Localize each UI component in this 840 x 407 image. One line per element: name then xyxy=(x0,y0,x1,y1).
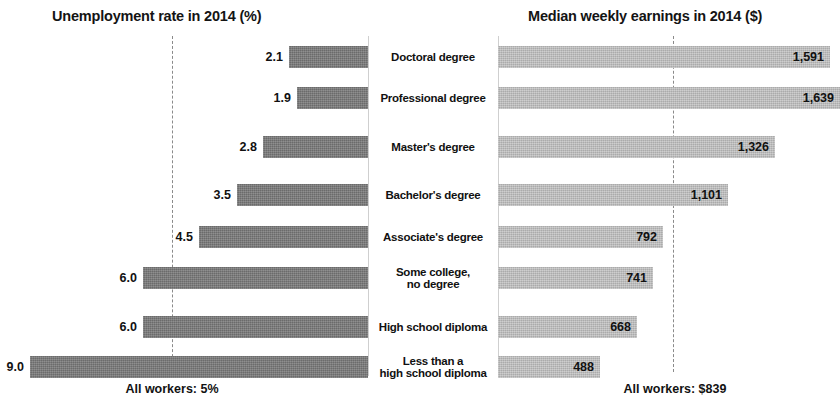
unemployment-value-label: 6.0 xyxy=(120,316,137,338)
earnings-bar-row: 1,101 xyxy=(498,184,840,206)
unemployment-bar xyxy=(143,316,368,338)
unemployment-value-label: 4.5 xyxy=(176,226,193,248)
unemployment-bar-row: 4.5 xyxy=(0,226,368,248)
category-label-line: Some college, xyxy=(368,266,498,279)
category-label-line: Professional degree xyxy=(368,92,498,105)
left-panel-footnote: All workers: 5% xyxy=(125,382,218,396)
earnings-value-label: 1,639 xyxy=(498,87,834,109)
unemployment-value-label: 2.8 xyxy=(240,136,257,158)
unemployment-bar xyxy=(143,267,368,289)
category-label-line: no degree xyxy=(368,278,498,291)
category-label: Doctoral degree xyxy=(368,51,498,64)
unemployment-value-label: 3.5 xyxy=(214,184,231,206)
earnings-bar-row: 1,591 xyxy=(498,46,840,68)
category-label: High school diploma xyxy=(368,321,498,334)
unemployment-bar xyxy=(263,136,368,158)
unemployment-value-label: 2.1 xyxy=(266,46,283,68)
category-label: Professional degree xyxy=(368,92,498,105)
earnings-bar-row: 1,639 xyxy=(498,87,840,109)
unemployment-value-label: 6.0 xyxy=(120,267,137,289)
unemployment-value-label: 1.9 xyxy=(274,87,291,109)
category-label: Master's degree xyxy=(368,141,498,154)
earnings-bar-row: 792 xyxy=(498,226,840,248)
unemployment-plot: 2.11.92.83.54.56.06.09.0 xyxy=(0,36,368,372)
right-panel-title: Median weekly earnings in 2014 ($) xyxy=(528,8,762,24)
earnings-value-label: 1,326 xyxy=(498,136,769,158)
earnings-bar-row: 668 xyxy=(498,316,840,338)
earnings-value-label: 668 xyxy=(498,316,631,338)
category-label-line: Doctoral degree xyxy=(368,51,498,64)
unemployment-value-label: 9.0 xyxy=(7,356,24,378)
chart-figure: Unemployment rate in 2014 (%) Median wee… xyxy=(0,0,840,407)
earnings-value-label: 1,591 xyxy=(498,46,824,68)
unemployment-bar xyxy=(30,356,368,378)
unemployment-bar xyxy=(297,87,368,109)
unemployment-bar xyxy=(199,226,368,248)
unemployment-bar-row: 2.8 xyxy=(0,136,368,158)
unemployment-bar-row: 6.0 xyxy=(0,316,368,338)
unemployment-bar-row: 2.1 xyxy=(0,46,368,68)
earnings-value-label: 792 xyxy=(498,226,657,248)
left-panel-title: Unemployment rate in 2014 (%) xyxy=(52,8,261,24)
category-label-line: Less than a xyxy=(368,355,498,368)
category-label-line: Master's degree xyxy=(368,141,498,154)
earnings-value-label: 488 xyxy=(498,356,594,378)
unemployment-bar-row: 6.0 xyxy=(0,267,368,289)
category-label: Some college,no degree xyxy=(368,266,498,291)
earnings-value-label: 741 xyxy=(498,267,647,289)
right-panel-footnote: All workers: $839 xyxy=(624,382,727,396)
category-label: Bachelor's degree xyxy=(368,189,498,202)
category-label-line: high school diploma xyxy=(368,367,498,380)
earnings-plot: 1,5911,6391,3261,101792741668488 xyxy=(498,36,840,372)
category-label-line: Bachelor's degree xyxy=(368,189,498,202)
category-label-line: High school diploma xyxy=(368,321,498,334)
unemployment-bar xyxy=(237,184,368,206)
category-label: Less than ahigh school diploma xyxy=(368,355,498,380)
earnings-value-label: 1,101 xyxy=(498,184,722,206)
unemployment-bar xyxy=(289,46,368,68)
earnings-bar-row: 741 xyxy=(498,267,840,289)
earnings-bar-row: 488 xyxy=(498,356,840,378)
earnings-bar-row: 1,326 xyxy=(498,136,840,158)
category-label-column: Doctoral degreeProfessional degreeMaster… xyxy=(368,36,498,372)
category-label-line: Associate's degree xyxy=(368,231,498,244)
unemployment-bar-row: 1.9 xyxy=(0,87,368,109)
unemployment-bar-row: 9.0 xyxy=(0,356,368,378)
unemployment-bar-row: 3.5 xyxy=(0,184,368,206)
category-label: Associate's degree xyxy=(368,231,498,244)
